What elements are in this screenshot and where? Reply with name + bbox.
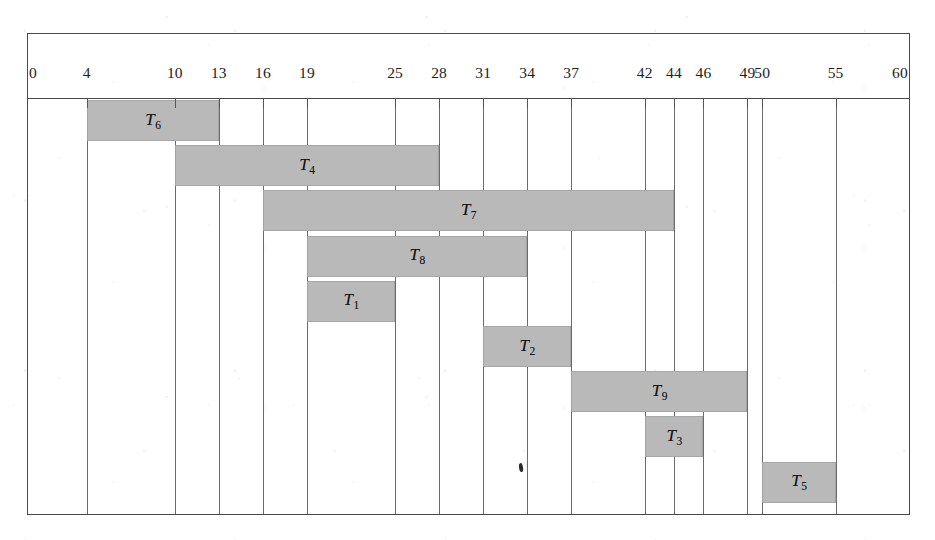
axis-tick-mark-44: [674, 98, 675, 108]
task-bar-label: T3: [666, 426, 681, 446]
grid-line-31: [483, 99, 484, 514]
axis-tick-label-42: 42: [637, 64, 653, 82]
axis-tick-mark-31: [483, 98, 484, 108]
axis-tick-mark-28: [439, 98, 440, 108]
grid-line-28: [439, 99, 440, 514]
axis-tick-mark-50: [762, 98, 763, 108]
axis-tick-label-37: 37: [563, 64, 579, 82]
task-bar-label: T4: [299, 155, 314, 175]
axis-tick-mark-55: [836, 98, 837, 108]
task-label-index: 3: [676, 435, 682, 447]
axis-tick-label-55: 55: [828, 64, 844, 82]
axis-tick-label-46: 46: [695, 64, 711, 82]
gantt-plot-area: T6T4T7T8T1T2T9T3T5: [28, 99, 909, 514]
axis-tick-label-19: 19: [299, 64, 315, 82]
task-label-letter: T: [145, 110, 154, 129]
axis-tick-mark-49: [747, 98, 748, 108]
axis-tick-mark-34: [527, 98, 528, 108]
axis-tick-label-16: 16: [255, 64, 271, 82]
axis-tick-label-49: 49: [740, 64, 756, 82]
axis-tick-mark-19: [307, 98, 308, 108]
task-bar-label: T2: [520, 336, 535, 356]
task-bar-label: T1: [343, 290, 358, 310]
axis-tick-label-28: 28: [431, 64, 447, 82]
task-label-index: 8: [419, 254, 425, 266]
axis-tick-label-25: 25: [387, 64, 403, 82]
task-bar-t9[interactable]: T9: [571, 371, 747, 412]
task-label-index: 4: [309, 164, 315, 176]
task-label-letter: T: [652, 381, 661, 400]
axis-tick-mark-42: [645, 98, 646, 108]
task-bar-label: T7: [461, 200, 476, 220]
axis-tick-mark-46: [703, 98, 704, 108]
grid-line-34: [527, 99, 528, 514]
task-bar-label: T8: [409, 245, 424, 265]
grid-line-50: [762, 99, 763, 514]
task-bar-label: T5: [791, 471, 806, 491]
axis-tick-mark-10: [175, 98, 176, 108]
axis-tick-label-0: 0: [29, 64, 37, 82]
task-label-letter: T: [409, 245, 418, 264]
task-label-letter: T: [666, 426, 675, 445]
task-label-letter: T: [343, 290, 352, 309]
gantt-chart-frame: 0410131619252831343742444649505560 T6T4T…: [27, 33, 910, 515]
grid-line-46: [703, 99, 704, 514]
task-bar-t6[interactable]: T6: [87, 100, 219, 141]
task-label-letter: T: [791, 471, 800, 490]
grid-line-55: [836, 99, 837, 514]
task-label-index: 6: [155, 119, 161, 131]
axis-tick-label-60: 60: [892, 64, 908, 82]
grid-line-37: [571, 99, 572, 514]
task-bar-t4[interactable]: T4: [175, 145, 439, 186]
task-label-index: 1: [353, 299, 359, 311]
task-label-letter: T: [520, 336, 529, 355]
task-bar-t8[interactable]: T8: [307, 236, 527, 277]
task-label-index: 7: [471, 209, 477, 221]
task-label-index: 5: [801, 480, 807, 492]
axis-tick-label-44: 44: [666, 64, 682, 82]
axis-tick-label-31: 31: [475, 64, 491, 82]
axis-tick-mark-16: [263, 98, 264, 108]
grid-line-49: [747, 99, 748, 514]
task-bar-t7[interactable]: T7: [263, 190, 674, 231]
task-label-letter: T: [461, 200, 470, 219]
axis-tick-label-50: 50: [754, 64, 770, 82]
task-bar-t5[interactable]: T5: [762, 462, 835, 503]
task-bar-t3[interactable]: T3: [645, 416, 704, 457]
axis-tick-mark-25: [395, 98, 396, 108]
axis-tick-label-13: 13: [211, 64, 227, 82]
axis-tick-mark-13: [219, 98, 220, 108]
axis-tick-label-34: 34: [519, 64, 535, 82]
task-label-letter: T: [299, 155, 308, 174]
task-bar-t1[interactable]: T1: [307, 281, 395, 322]
task-bar-label: T6: [145, 110, 160, 130]
task-label-index: 9: [662, 390, 668, 402]
axis-tick-mark-37: [571, 98, 572, 108]
task-bar-t2[interactable]: T2: [483, 326, 571, 367]
task-bar-label: T9: [652, 381, 667, 401]
axis-tick-label-4: 4: [83, 64, 91, 82]
axis-tick-mark-4: [87, 98, 88, 108]
grid-line-4: [87, 99, 88, 514]
axis-tick-label-10: 10: [167, 64, 183, 82]
task-label-index: 2: [530, 345, 536, 357]
time-axis-header: 0410131619252831343742444649505560: [28, 34, 909, 98]
